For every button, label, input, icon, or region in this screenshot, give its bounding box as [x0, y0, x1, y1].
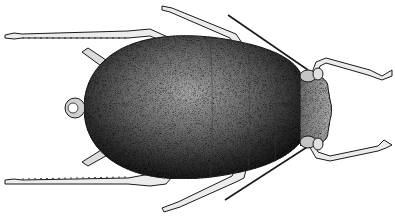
cauda: [65, 98, 85, 118]
aphid-drawing: [0, 0, 395, 218]
aphid-illustration: aphid: [0, 0, 395, 218]
abdomen: [84, 36, 302, 179]
head: [300, 68, 332, 150]
hind-leg-left-lower: [5, 174, 172, 186]
